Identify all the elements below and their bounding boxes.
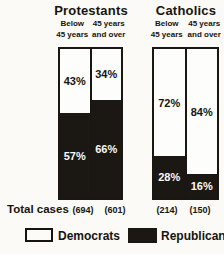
bar-protestants-45-and-over: 34% 66% (90, 49, 122, 198)
group-title-protestants: Protestants (46, 3, 136, 18)
democrat-segment: 72% (154, 49, 185, 156)
democrat-pct-label: 34% (95, 68, 117, 80)
column-label: 45 years and over (186, 19, 224, 40)
legend-label-republicans: Republicans (161, 229, 224, 243)
column-label-line2: and over (91, 30, 128, 41)
column-label: Below 45 years (148, 19, 186, 40)
republican-segment: 57% (60, 113, 90, 198)
bar-catholics-below-45: 72% 28% (154, 49, 185, 198)
republican-pct-label: 66% (95, 143, 117, 155)
total-cases-protestants-below-45: (694) (68, 205, 98, 215)
democrat-segment: 34% (92, 49, 122, 100)
column-label-line1: Below (148, 19, 186, 30)
column-label-line2: 45 years (148, 30, 186, 41)
column-labels-protestants: Below 45 years 45 years and over (54, 19, 127, 40)
democrat-pct-label: 43% (64, 75, 86, 87)
total-cases-protestants-45-and-over: (601) (100, 205, 130, 215)
republican-pct-label: 28% (158, 171, 180, 183)
republican-segment: 28% (154, 156, 185, 198)
bar-catholics-45-and-over: 84% 16% (185, 49, 218, 198)
total-cases-label: Total cases (7, 203, 69, 215)
total-cases-catholics-below-45: (214) (152, 205, 182, 215)
republican-pct-label: 16% (191, 180, 213, 192)
column-labels-catholics: Below 45 years 45 years and over (148, 19, 223, 40)
legend-label-democrats: Democrats (58, 229, 120, 243)
column-label-line1: Below (54, 19, 91, 30)
republican-segment: 66% (92, 100, 122, 198)
stacked-bar-chart: Protestants Catholics Below 45 years 45 … (0, 0, 224, 254)
legend-swatch-republicans (128, 228, 157, 243)
democrat-segment: 43% (60, 49, 90, 113)
bar-group-catholics: 72% 28% 84% 16% (152, 47, 219, 200)
group-title-catholics: Catholics (146, 3, 224, 18)
democrat-pct-label: 72% (158, 97, 180, 109)
column-label-line1: 45 years (186, 19, 224, 30)
democrat-segment: 84% (187, 49, 218, 174)
column-label-line1: 45 years (91, 19, 128, 30)
column-label: Below 45 years (54, 19, 91, 40)
column-label: 45 years and over (91, 19, 128, 40)
total-cases-catholics-45-and-over: (150) (185, 205, 215, 215)
republican-segment: 16% (187, 174, 218, 198)
column-label-line2: and over (186, 30, 224, 41)
column-label-line2: 45 years (54, 30, 91, 41)
democrat-pct-label: 84% (191, 106, 213, 118)
bar-protestants-below-45: 43% 57% (60, 49, 90, 198)
legend-swatch-democrats (25, 228, 53, 242)
republican-pct-label: 57% (64, 150, 86, 162)
bar-group-protestants: 43% 57% 34% 66% (58, 47, 123, 200)
